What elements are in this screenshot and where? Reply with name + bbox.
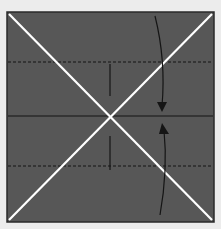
origami-diagram — [0, 0, 221, 229]
